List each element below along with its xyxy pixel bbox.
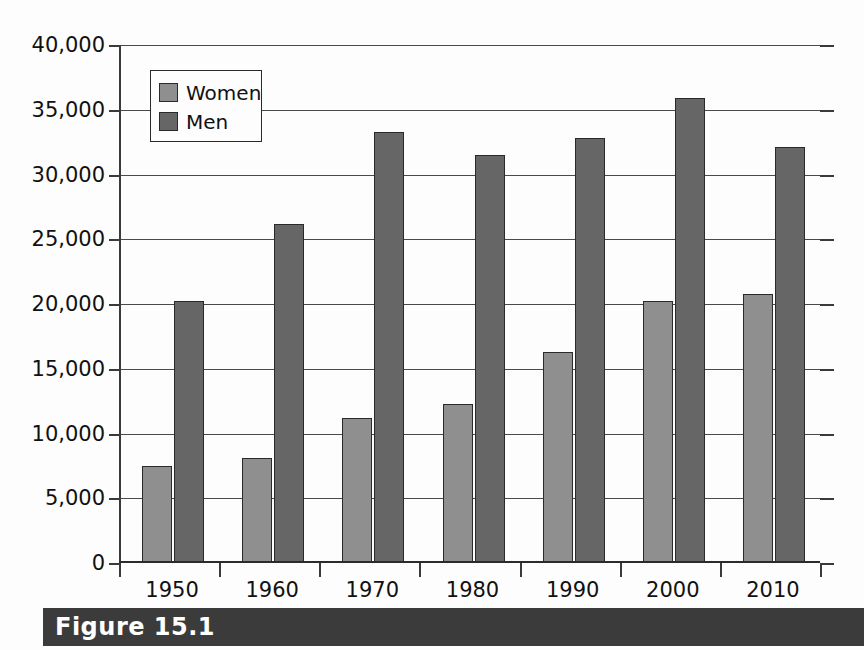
x-axis-tick-mark [119, 563, 121, 577]
y-axis-tick-mark [109, 304, 121, 306]
chart-legend: Women Men [150, 70, 262, 142]
bar-chart: 05,00010,00015,00020,00025,00030,00035,0… [0, 0, 864, 600]
y-axis-tick-mark [109, 175, 121, 177]
bar-women-1950 [142, 466, 172, 563]
x-axis-tick-mark [520, 563, 522, 577]
x-axis-tick-label: 1960 [245, 578, 298, 602]
bar-women-2000 [643, 301, 673, 563]
x-axis-tick-label: 1990 [546, 578, 599, 602]
y-axis-tick-mark-right [820, 110, 834, 112]
x-axis-tick-label: 1950 [145, 578, 198, 602]
bar-women-1960 [242, 458, 272, 563]
x-axis-tick-mark [720, 563, 722, 577]
figure-caption-banner: Figure 15.1 [43, 608, 864, 646]
bar-women-1980 [443, 404, 473, 563]
bar-women-2010 [743, 294, 773, 563]
x-axis-tick-label: 1980 [446, 578, 499, 602]
x-axis-tick-mark [219, 563, 221, 577]
y-axis-tick-mark [109, 369, 121, 371]
bar-women-1970 [342, 418, 372, 563]
y-axis-tick-label: 0 [92, 551, 105, 575]
y-axis-tick-mark-right [820, 175, 834, 177]
bar-men-1970 [374, 132, 404, 563]
y-axis-tick-mark-right [820, 304, 834, 306]
legend-swatch-women-icon [159, 83, 178, 102]
y-axis-tick-mark [109, 45, 121, 47]
x-axis-tick-label: 2010 [746, 578, 799, 602]
legend-item-women: Women [159, 78, 261, 107]
y-axis-tick-mark [109, 110, 121, 112]
bar-men-2010 [775, 147, 805, 563]
x-axis-tick-mark [419, 563, 421, 577]
figure-container: 05,00010,00015,00020,00025,00030,00035,0… [0, 0, 864, 650]
y-axis-labels: 05,00010,00015,00020,00025,00030,00035,0… [0, 0, 105, 600]
y-axis-tick-mark [109, 498, 121, 500]
x-axis-tick-mark [620, 563, 622, 577]
legend-swatch-men-icon [159, 112, 178, 131]
legend-label-men: Men [186, 112, 228, 132]
figure-caption-text: Figure 15.1 [43, 613, 215, 641]
y-axis-tick-label: 5,000 [45, 486, 105, 510]
y-axis-tick-label: 20,000 [32, 292, 105, 316]
bar-men-1960 [274, 224, 304, 563]
y-axis-tick-mark-right [820, 239, 834, 241]
x-axis-tick-label: 2000 [646, 578, 699, 602]
y-axis-tick-mark [109, 239, 121, 241]
y-axis-tick-mark-right [820, 563, 834, 565]
y-axis-tick-mark-right [820, 45, 834, 47]
legend-item-men: Men [159, 107, 261, 136]
y-axis-tick-label: 35,000 [32, 98, 105, 122]
y-axis-tick-label: 40,000 [32, 33, 105, 57]
x-axis-ticks [119, 563, 820, 577]
x-axis-tick-mark [820, 563, 822, 577]
x-axis-tick-label: 1970 [346, 578, 399, 602]
bar-men-2000 [675, 98, 705, 563]
bar-men-1990 [575, 138, 605, 563]
x-axis-tick-mark [319, 563, 321, 577]
bar-women-1990 [543, 352, 573, 563]
x-axis-labels: 1950196019701980199020002010 [119, 578, 820, 608]
y-axis-tick-mark [109, 434, 121, 436]
y-axis-tick-mark-right [820, 369, 834, 371]
bar-men-1980 [475, 155, 505, 563]
legend-label-women: Women [186, 83, 261, 103]
y-axis-tick-mark-right [820, 498, 834, 500]
y-axis-tick-label: 15,000 [32, 357, 105, 381]
bar-men-1950 [174, 301, 204, 563]
y-axis-tick-label: 10,000 [32, 422, 105, 446]
y-axis-tick-mark-right [820, 434, 834, 436]
y-axis-tick-label: 25,000 [32, 227, 105, 251]
y-axis-tick-label: 30,000 [32, 163, 105, 187]
